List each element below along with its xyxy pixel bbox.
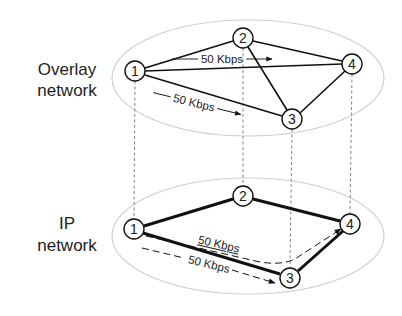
overlay-flow-1-label: 50 Kbps [201, 53, 243, 65]
overlay-ip-network-diagram: 50 Kbps 50 Kbps 50 Kbps 50 Kbps 1 2 3 [0, 0, 402, 316]
overlay-links [145, 41, 345, 116]
overlay-node-1-label: 1 [131, 63, 139, 79]
ip-node-3-label: 3 [286, 270, 294, 286]
ip-link-3-4 [298, 231, 343, 271]
ip-node-2: 2 [233, 186, 253, 206]
ip-node-4-label: 4 [346, 216, 354, 232]
overlay-flow-2: 50 Kbps [152, 87, 242, 120]
projection-line-node-4 [350, 74, 352, 214]
ip-links [143, 199, 343, 274]
ip-link-1-2 [144, 199, 233, 226]
ip-node-1: 1 [124, 219, 144, 239]
ip-node-2-label: 2 [239, 188, 247, 204]
overlay-node-4-label: 4 [348, 56, 356, 72]
overlay-network-label-line2: network [37, 81, 97, 100]
projection-line-node-3 [290, 129, 292, 268]
ip-link-2-4 [253, 199, 340, 221]
overlay-node-4: 4 [342, 54, 362, 74]
overlay-network-label-line1: Overlay [38, 60, 97, 79]
overlay-node-1: 1 [125, 61, 145, 81]
overlay-link-3-4 [300, 71, 345, 113]
ip-node-3: 3 [280, 268, 300, 288]
overlay-node-3: 3 [282, 109, 302, 129]
projection-line-node-1 [134, 81, 135, 219]
ip-network-label-line1: IP [59, 214, 75, 233]
overlay-node-2-label: 2 [239, 30, 247, 46]
overlay-link-1-4 [145, 64, 342, 71]
ip-node-4: 4 [340, 214, 360, 234]
overlay-node-3-label: 3 [288, 111, 296, 127]
ip-node-1-label: 1 [130, 221, 138, 237]
overlay-node-2: 2 [233, 28, 253, 48]
overlay-link-2-3 [248, 47, 287, 110]
overlay-nodes: 1 2 3 4 [125, 28, 362, 129]
overlay-link-2-4 [253, 41, 342, 61]
ip-network-label-line2: network [37, 236, 97, 255]
